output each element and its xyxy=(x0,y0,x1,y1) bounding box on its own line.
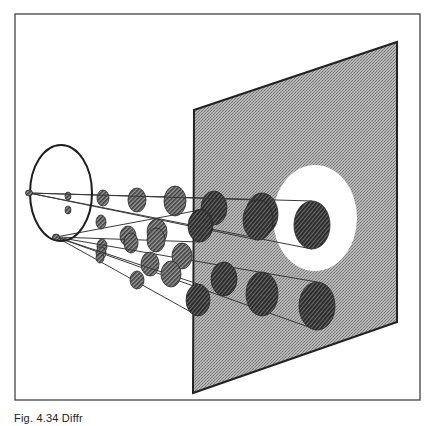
wavefront-disc xyxy=(128,188,146,212)
wavefront-disc xyxy=(147,228,165,252)
wavefront-disc xyxy=(65,192,71,200)
wavefront-disc xyxy=(141,252,159,276)
wavefront-disc xyxy=(96,253,104,263)
point-source-dot xyxy=(26,190,33,196)
wavefront-disc xyxy=(97,190,109,206)
wavefront-disc xyxy=(211,262,237,296)
figure-caption: Fig. 4.34 Diffr xyxy=(14,412,83,424)
wavefront-disc xyxy=(65,206,71,214)
wavefront-disc xyxy=(246,272,278,316)
wavefront-disc xyxy=(188,210,212,242)
wavefront-disc xyxy=(161,261,181,287)
diffraction-figure xyxy=(0,0,431,426)
wavefront-disc xyxy=(294,201,330,249)
wavefront-disc xyxy=(96,215,106,229)
wavefront-disc xyxy=(299,282,335,330)
wavefront-disc xyxy=(186,284,210,316)
wavefront-disc xyxy=(164,186,186,216)
wavefront-disc xyxy=(130,271,144,289)
wavefront-disc xyxy=(243,200,273,240)
point-source-dot xyxy=(53,234,60,240)
